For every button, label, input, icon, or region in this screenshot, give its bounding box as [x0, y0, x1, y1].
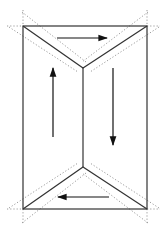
dotted-br-diag-lower — [82, 173, 148, 223]
dotted-tr-diag-upper — [82, 12, 148, 62]
solid-outline — [23, 26, 147, 209]
dotted-tl-diag-lower — [9, 27, 78, 72]
dotted-tl-diag-upper — [22, 12, 86, 62]
outer-rectangle — [23, 26, 147, 209]
folding-diagram — [0, 0, 166, 234]
dotted-bl-diag-lower — [22, 173, 86, 223]
dotted-br-diag-upper — [90, 163, 159, 208]
dotted-bl-diag-upper — [9, 163, 78, 208]
dotted-tr-diag-lower — [90, 27, 159, 72]
